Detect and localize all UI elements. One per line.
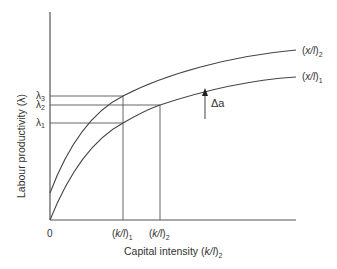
x-tick-kl-2: (k/l)2 <box>149 228 170 241</box>
y-axis-title: Labour productivity (λ) <box>15 94 27 198</box>
y-tick-lambda-1: λ1 <box>36 117 45 129</box>
curve-label-x-l-2: (x/l)2 <box>302 45 323 58</box>
curve-label-x-l-1: (x/l)1 <box>302 71 323 84</box>
x-axis-title: Capital intensity (k/l)2 <box>124 245 223 259</box>
productivity-diagram: Δa (x/l)2 (x/l)1 λ3 λ2 λ1 0 (k/l)1 (k/l)… <box>0 0 337 269</box>
x-tick-kl-1: (k/l)1 <box>112 228 133 241</box>
curve-x-l-2 <box>50 50 296 193</box>
shift-label: Δa <box>211 97 225 109</box>
origin-label: 0 <box>47 228 53 239</box>
curve-x-l-1 <box>50 77 296 220</box>
